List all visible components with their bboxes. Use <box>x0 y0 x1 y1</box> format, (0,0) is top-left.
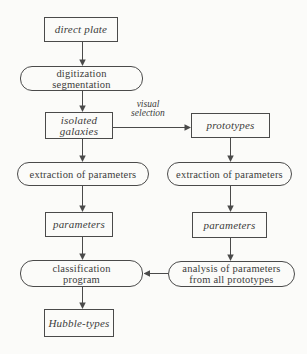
node-direct-plate: direct plate <box>44 17 118 42</box>
node-hubble-types: Hubble-types <box>44 309 114 337</box>
node-classification-program-label: classification program <box>52 263 110 285</box>
node-extraction-of-parameters-right-label: extraction of parameters <box>176 169 283 180</box>
node-isolated-galaxies: isolated galaxies <box>45 112 113 139</box>
node-direct-plate-label: direct plate <box>55 24 107 35</box>
node-analysis-of-parameters-label: analysis of parameters from all prototyp… <box>182 263 280 285</box>
flowchart-canvas: direct plate digitization segmentation i… <box>0 0 307 354</box>
node-parameters-right: parameters <box>192 212 267 238</box>
node-extraction-of-parameters-right: extraction of parameters <box>167 162 292 186</box>
node-digitization-segmentation: digitization segmentation <box>20 66 143 91</box>
node-analysis-of-parameters: analysis of parameters from all prototyp… <box>168 261 295 287</box>
node-classification-program: classification program <box>20 260 143 287</box>
node-parameters-left: parameters <box>45 212 113 237</box>
node-digitization-segmentation-label: digitization segmentation <box>52 68 110 90</box>
edge-label-visual-selection: visual selection <box>116 100 180 118</box>
node-parameters-right-label: parameters <box>203 220 255 231</box>
node-extraction-of-parameters-left: extraction of parameters <box>17 162 149 186</box>
node-parameters-left-label: parameters <box>53 219 105 230</box>
node-prototypes: prototypes <box>191 113 270 138</box>
node-hubble-types-label: Hubble-types <box>48 318 109 329</box>
node-extraction-of-parameters-left-label: extraction of parameters <box>30 169 137 180</box>
node-prototypes-label: prototypes <box>206 120 254 131</box>
node-isolated-galaxies-label: isolated galaxies <box>60 115 98 137</box>
